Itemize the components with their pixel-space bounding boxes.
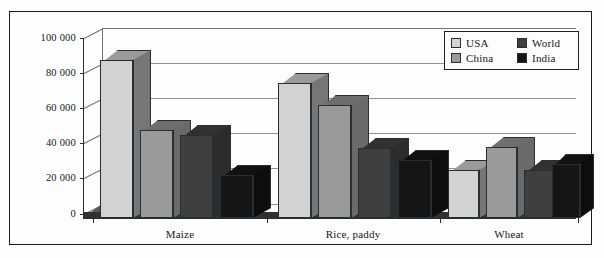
bar-maize-world [180,135,213,218]
bar-front-face [100,60,133,218]
legend-swatch-india [517,53,527,63]
bar-rice-usa [278,83,311,218]
bar-front-face [486,147,517,218]
bar-rice-world [358,148,391,218]
bar-maize-china [140,130,173,218]
bar-wheat-india [552,164,580,218]
legend-entry-china: China [451,52,504,66]
bar-front-face [278,83,311,218]
bar-side-face [580,154,594,218]
y-axis-tick-label: 80 000 [18,67,76,78]
x-axis-category-label: Maize [130,228,230,240]
bar-maize-usa [100,60,133,218]
bar-maize-india [220,175,253,218]
legend-swatch-world [517,38,527,48]
legend-entry-world: World [517,36,571,50]
back-wall-top-edge [102,28,576,29]
bar-wheat-china [486,147,517,218]
x-axis-tick [267,218,268,223]
x-axis-tick [93,218,94,223]
chart-figure: 100 000 80 000 60 000 40 000 20 000 0 [0,0,604,258]
bar-front-face [180,135,213,218]
y-axis-line [83,38,84,218]
legend-swatch-usa [451,38,461,48]
plot-area: 100 000 80 000 60 000 40 000 20 000 0 [0,0,604,258]
chart-legend: USA World China India [444,31,579,70]
legend-swatch-china [451,53,461,63]
bar-wheat-world [524,170,555,218]
x-axis-category-label: Wheat [459,228,559,240]
bar-rice-china [318,105,351,218]
x-axis-tick [578,218,579,223]
bar-front-face [140,130,173,218]
bar-side-face [431,150,449,218]
legend-label-china: China [466,52,493,64]
y-axis-tick-label: 20 000 [18,172,76,183]
legend-entry-usa: USA [451,36,504,50]
axis-depth-edge [84,28,103,39]
legend-label-usa: USA [466,37,489,49]
bar-front-face [398,160,431,218]
bar-front-face [220,175,253,218]
legend-label-india: India [532,52,556,64]
bar-rice-india [398,160,431,218]
legend-label-world: World [532,37,560,49]
y-axis-tick-label: 0 [18,208,76,219]
bar-front-face [448,170,479,218]
bar-front-face [358,148,391,218]
bar-wheat-usa [448,170,479,218]
bar-front-face [524,170,555,218]
bar-front-face [318,105,351,218]
y-axis-tick-label: 60 000 [18,102,76,113]
x-axis-tick [440,218,441,223]
y-axis-tick-label: 100 000 [18,32,76,43]
bar-front-face [552,164,580,218]
y-axis-tick-label: 40 000 [18,137,76,148]
x-axis-category-label: Rice, paddy [303,228,403,240]
legend-entry-india: India [517,52,571,66]
